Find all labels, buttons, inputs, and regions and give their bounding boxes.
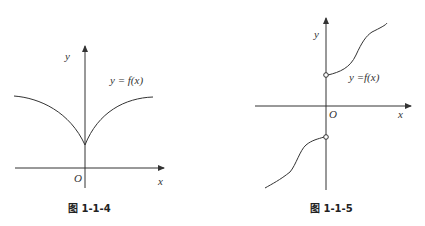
figure-1-1-4: y y = f(x) O x 图 1-1-4 <box>14 46 164 214</box>
y-axis-label: y <box>64 50 70 62</box>
figure-caption: 图 1-1-4 <box>68 203 111 214</box>
open-circle-lower <box>324 135 329 140</box>
x-axis-label: x <box>157 175 163 187</box>
x-axis-label: x <box>397 108 403 120</box>
function-label: y =f(x) <box>348 71 380 84</box>
figure-caption: 图 1-1-5 <box>310 203 353 214</box>
open-circle-upper <box>324 73 329 78</box>
upper-branch-curve <box>328 23 387 75</box>
lower-branch-curve <box>265 137 324 188</box>
y-axis-label: y <box>313 28 319 40</box>
origin-label: O <box>74 172 82 184</box>
origin-label: O <box>329 108 337 120</box>
function-curve <box>14 96 153 145</box>
figure-1-1-5: y y =f(x) O x 图 1-1-5 <box>255 18 411 214</box>
figure-canvas: y y = f(x) O x 图 1-1-4 y y =f(x) O x 图 1… <box>0 0 425 226</box>
function-label: y = f(x) <box>109 74 143 87</box>
